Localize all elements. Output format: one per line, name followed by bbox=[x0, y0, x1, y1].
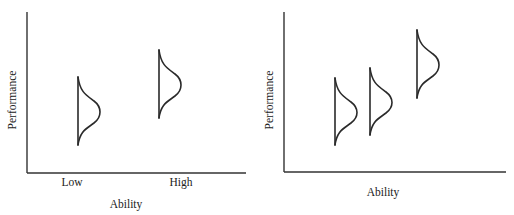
right-distribution-3 bbox=[417, 30, 439, 98]
right-diagram-canvas bbox=[0, 0, 514, 215]
right-distribution-1 bbox=[335, 78, 357, 145]
right-diagram-panel: Performance Ability bbox=[0, 0, 514, 215]
right-y-axis-label: Performance bbox=[264, 71, 276, 130]
right-x-axis-label: Ability bbox=[367, 187, 400, 199]
right-distribution-2 bbox=[370, 68, 392, 135]
